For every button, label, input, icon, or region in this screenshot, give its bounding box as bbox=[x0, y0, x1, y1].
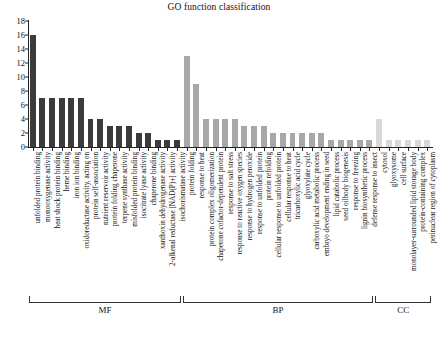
bar bbox=[376, 119, 382, 147]
bar bbox=[270, 133, 276, 147]
bar bbox=[174, 140, 180, 147]
x-axis-category-label: response to salt stress bbox=[228, 152, 235, 214]
bar bbox=[155, 140, 161, 147]
bar bbox=[280, 133, 286, 147]
bar bbox=[59, 98, 65, 147]
bar bbox=[395, 140, 401, 147]
bar bbox=[309, 133, 315, 147]
bar bbox=[145, 133, 151, 147]
bar bbox=[116, 126, 122, 147]
x-axis-category-label: response to freezing bbox=[353, 152, 360, 210]
bar bbox=[49, 98, 55, 147]
x-axis-tick-mark bbox=[129, 148, 130, 151]
x-axis-tick-mark bbox=[360, 148, 361, 151]
bar bbox=[424, 140, 430, 147]
x-axis-category-label: embryo development ending in seed bbox=[324, 152, 331, 256]
x-axis-category-label: xanthoxin dehydrogenase activity bbox=[160, 152, 167, 249]
bar bbox=[184, 56, 190, 147]
x-axis-tick-mark bbox=[273, 148, 274, 151]
x-axis-category-label: cytosol bbox=[382, 152, 389, 173]
x-axis-category-label: protein self-association bbox=[93, 152, 100, 219]
x-axis-category-label: isocitrate lyase activity bbox=[141, 152, 148, 218]
x-axis-tick-mark bbox=[52, 148, 53, 151]
bar bbox=[299, 133, 305, 147]
x-axis-category-label: perinuclear region of cytoplasm bbox=[430, 152, 437, 244]
x-axis-category-label: unfolded protein binding bbox=[35, 152, 42, 223]
bar bbox=[386, 140, 392, 147]
x-axis-tick-mark bbox=[206, 148, 207, 151]
bar bbox=[251, 126, 257, 147]
x-axis-tick-mark bbox=[110, 148, 111, 151]
bar bbox=[357, 140, 363, 147]
group-bracket bbox=[375, 296, 430, 303]
group-bracket bbox=[29, 296, 181, 303]
bar bbox=[107, 126, 113, 147]
x-axis-tick-mark bbox=[283, 148, 284, 151]
x-axis-category-label: response to hydrogen peroxide bbox=[247, 152, 254, 240]
bar bbox=[222, 119, 228, 147]
x-axis-category-label: tricarboxylic acid cycle bbox=[295, 152, 302, 219]
bar bbox=[328, 140, 334, 147]
x-axis-tick-mark bbox=[225, 148, 226, 151]
x-axis-category-label: glyoxysome bbox=[391, 152, 398, 187]
bar bbox=[126, 126, 132, 147]
bar bbox=[193, 84, 199, 147]
x-axis-tick-mark bbox=[398, 148, 399, 151]
bar bbox=[136, 133, 142, 147]
go-function-classification-chart: GO function classification 0246810121416… bbox=[0, 0, 438, 340]
x-axis-category-label: cellular response to heat bbox=[286, 152, 293, 222]
bar bbox=[318, 133, 324, 147]
x-axis-tick-mark bbox=[62, 148, 63, 151]
x-axis-category-label: lipid catabolic process bbox=[334, 152, 341, 216]
bar bbox=[30, 35, 36, 147]
x-axis-tick-mark bbox=[91, 148, 92, 151]
bar bbox=[366, 140, 372, 147]
x-axis-category-label: chaperone binding bbox=[151, 152, 158, 205]
x-axis-tick-mark bbox=[100, 148, 101, 151]
x-axis-tick-mark bbox=[42, 148, 43, 151]
bar bbox=[164, 140, 170, 147]
x-axis-category-label: lignin biosynthetic process bbox=[362, 152, 369, 229]
x-axis-tick-mark bbox=[254, 148, 255, 151]
bar bbox=[78, 98, 84, 147]
x-axis-tick-mark bbox=[167, 148, 168, 151]
x-axis-category-label: oxidoreductase activity, acting on bbox=[84, 152, 91, 249]
x-axis-tick-mark bbox=[427, 148, 428, 151]
x-axis-category-label: response to heat bbox=[199, 152, 206, 198]
x-axis-category-labels: unfolded protein bindingmonooxygenase ac… bbox=[28, 152, 432, 292]
x-axis-tick-mark bbox=[312, 148, 313, 151]
x-axis-category-label: cellular response to unfolded protein bbox=[276, 152, 283, 257]
x-axis-category-label: glyoxylate cycle bbox=[305, 152, 312, 199]
x-axis-tick-mark bbox=[235, 148, 236, 151]
group-label: CC bbox=[375, 305, 430, 315]
bar bbox=[68, 98, 74, 147]
x-axis-category-label: protein-containing complex bbox=[420, 152, 427, 232]
group-bracket bbox=[183, 296, 373, 303]
x-axis-category-label: heme binding bbox=[64, 152, 71, 191]
x-axis-category-label: carboxylic acid metabolic process bbox=[314, 152, 321, 250]
x-axis-tick-mark bbox=[71, 148, 72, 151]
bar bbox=[232, 119, 238, 147]
x-axis-category-label: response to reactive oxygen species bbox=[237, 152, 244, 255]
x-axis-category-label: defense response to insect bbox=[372, 152, 379, 227]
x-axis-category-label: misfolded protein binding bbox=[132, 152, 139, 227]
x-axis-category-label: protein folding chaperone bbox=[112, 152, 119, 226]
x-axis-tick-mark bbox=[148, 148, 149, 151]
x-axis-tick-mark bbox=[418, 148, 419, 151]
bar bbox=[415, 140, 421, 147]
x-axis-tick-mark bbox=[244, 148, 245, 151]
x-axis-tick-mark bbox=[216, 148, 217, 151]
x-axis-category-label: nutrient reservoir activity bbox=[103, 152, 110, 225]
x-axis-category-label: terpene synthase activity bbox=[122, 152, 129, 223]
x-axis-category-label: response to unfolded protein bbox=[257, 152, 264, 234]
x-axis-category-label: heat shock protein binding bbox=[55, 152, 62, 228]
chart-title: GO function classification bbox=[0, 2, 438, 12]
x-axis-tick-mark bbox=[389, 148, 390, 151]
group-brackets: MFBPCC bbox=[28, 296, 432, 326]
group-label: BP bbox=[183, 305, 373, 315]
bar bbox=[241, 126, 247, 147]
x-axis-category-label: 2-alkenal reductase [NAD(P)+] activity bbox=[170, 152, 177, 266]
x-axis-tick-mark bbox=[158, 148, 159, 151]
x-axis-tick-mark bbox=[81, 148, 82, 151]
group-label: MF bbox=[29, 305, 181, 315]
